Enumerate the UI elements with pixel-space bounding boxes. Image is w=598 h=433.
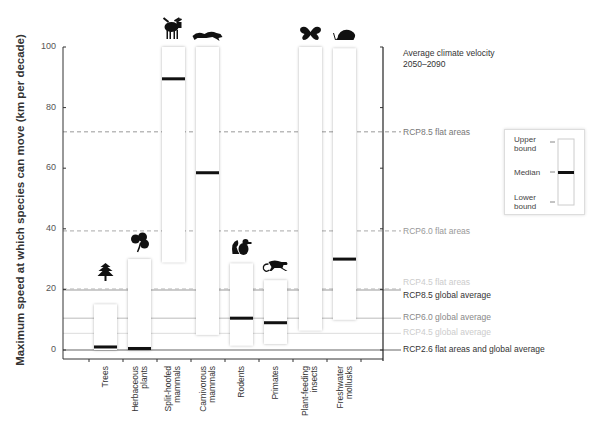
x-category-text: Rodents [237, 366, 246, 398]
y-tick-label: 0 [32, 344, 56, 354]
range-bar [94, 305, 117, 350]
y-tick-label: 20 [32, 283, 56, 293]
median-marker [230, 317, 253, 320]
butterfly-icon [300, 27, 321, 40]
squirrel-icon [232, 239, 251, 255]
plot-area [0, 0, 598, 433]
range-bar [299, 47, 322, 330]
x-category-text: Split-hoofed mammals [165, 366, 183, 411]
right-axis-title-line2: 2050–2090 [403, 59, 495, 70]
x-category-text: Trees [101, 366, 110, 387]
label-rcp45-global: RCP4.5 global average [403, 327, 491, 337]
range-bar [264, 280, 287, 344]
label-rcp60-global: RCP6.0 global average [403, 312, 491, 322]
chart: Maximum speed at which species can move … [0, 0, 598, 433]
tree-icon [98, 263, 114, 281]
snail-icon [334, 30, 356, 40]
x-category-text: Carnivorous mammals [199, 366, 217, 412]
moose-icon [164, 18, 182, 39]
y-axis-title: Maximum speed at which species can move … [14, 34, 26, 366]
y-tick-label: 40 [32, 223, 56, 233]
range-bar [196, 47, 219, 335]
monkey-icon [263, 261, 287, 272]
y-tick-label: 100 [32, 41, 56, 51]
right-axis-title-line1: Average climate velocity [403, 48, 495, 59]
median-marker [162, 77, 185, 80]
median-marker [333, 258, 356, 261]
label-rcp85-global: RCP8.5 global average [403, 290, 491, 300]
y-tick-label: 60 [32, 162, 56, 172]
legend: Upper bound Median Lower bound [504, 129, 585, 215]
clover-icon [131, 233, 149, 253]
x-category-text: Plant-feeding insects [302, 366, 320, 416]
label-rcp45-flat: RCP4.5 flat areas [403, 277, 470, 287]
right-axis-title: Average climate velocity 2050–2090 [403, 48, 495, 70]
median-marker [264, 321, 287, 324]
range-bar [333, 49, 356, 320]
label-rcp85-flat: RCP8.5 flat areas [403, 127, 470, 137]
x-category-text: Primates [271, 366, 280, 400]
median-marker [128, 347, 151, 350]
median-marker [94, 345, 117, 348]
x-category-text: Herbaceous plants [131, 366, 149, 412]
range-bar [230, 264, 253, 346]
label-rcp60-flat: RCP6.0 flat areas [403, 226, 470, 236]
cougar-icon [193, 32, 223, 41]
median-marker [196, 171, 219, 174]
y-tick-label: 80 [32, 102, 56, 112]
label-rcp26: RCP2.6 flat areas and global average [403, 344, 545, 354]
legend-swatch [505, 130, 584, 214]
range-bar [128, 259, 151, 350]
x-category-text: Freshwater mollusks [336, 366, 354, 409]
